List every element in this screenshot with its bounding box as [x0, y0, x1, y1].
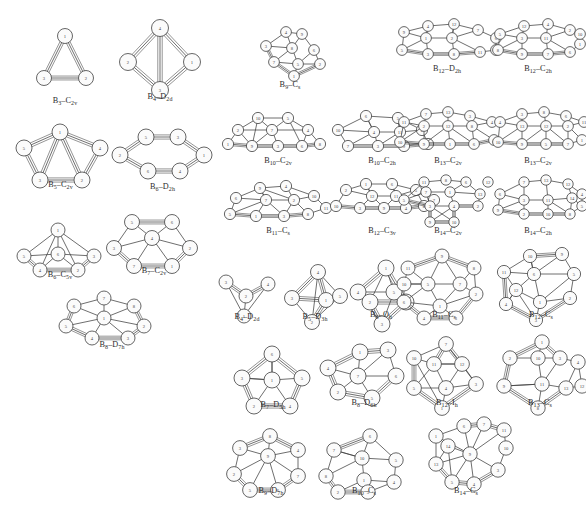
formula-subscript: 11	[272, 230, 278, 236]
atom-node	[517, 49, 528, 60]
atom-node	[457, 419, 471, 433]
cluster-b10-c2v: 10527419368B10–C2v	[222, 108, 334, 172]
point-group-subscript: 2v	[71, 100, 77, 106]
atom-node	[170, 129, 186, 145]
point-group-subscript: 6h	[370, 402, 376, 408]
atom-node	[112, 147, 128, 163]
atom-node	[563, 139, 574, 150]
formula-subscript: 4	[240, 316, 243, 322]
atom-node	[421, 33, 432, 44]
atom-node	[517, 109, 528, 120]
atom-node	[252, 112, 263, 123]
point-group-symbol: C	[540, 226, 546, 235]
atom-node	[92, 140, 108, 156]
atom-node	[388, 368, 404, 384]
cluster-label-b6-c5v: B6–C5v	[10, 270, 110, 279]
atom-group: 132	[37, 29, 94, 86]
cluster-label-b12-ih: B12–Ih	[404, 398, 490, 407]
cluster-label-b8-d7h: B8–D7h	[52, 340, 172, 349]
formula-element: B	[264, 156, 270, 165]
point-group-subscript: s	[551, 314, 553, 320]
atom-node	[517, 139, 528, 150]
cluster-b12-d2h: 412791265381110B12–D2h	[392, 18, 502, 80]
formula-element: B	[368, 226, 374, 235]
cluster-b12-c2h: 124253118976110B12–C2h	[490, 18, 586, 80]
atom-node	[227, 467, 242, 482]
atom-node	[495, 29, 506, 40]
cluster-label-b4-d2d-b: B4–D2d	[212, 312, 282, 321]
atom-node	[372, 140, 383, 151]
atom-node	[435, 249, 449, 263]
formula-subscript: 6	[376, 314, 379, 320]
formula-subscript: 5	[54, 184, 57, 190]
atom-node	[467, 121, 478, 132]
atom-node	[291, 469, 306, 484]
point-group-subscript: 2v	[456, 230, 462, 236]
atom-node	[439, 337, 454, 352]
atom-node	[469, 139, 480, 150]
formula-element: B	[524, 156, 530, 165]
atom-node	[425, 201, 435, 211]
cluster-label-b10-c2v: B10–C2v	[222, 156, 334, 165]
point-group-symbol: C	[545, 310, 551, 319]
formula-subscript: 12	[442, 402, 448, 408]
cluster-label-b5-d3h: B5–D3h	[282, 312, 348, 321]
atom-node	[340, 184, 351, 195]
atom-node	[342, 140, 353, 151]
point-group-symbol: C	[540, 156, 546, 165]
atom-node	[378, 260, 394, 276]
point-group-symbol: C	[540, 64, 546, 73]
atom-node	[563, 121, 574, 132]
cluster-diagram-b5-d3h: 43152	[282, 262, 348, 332]
point-group-symbol: C	[384, 226, 390, 235]
atom-node	[567, 267, 580, 280]
formula-subscript: 8	[357, 402, 360, 408]
cluster-label-b12-d2h: B12–D2h	[392, 64, 502, 73]
atom-node	[368, 126, 379, 137]
point-group-subscript: h	[455, 402, 458, 408]
atom-node	[423, 21, 434, 32]
atom-node	[196, 147, 212, 163]
atom-node	[261, 277, 275, 291]
atom-node	[397, 45, 408, 56]
cluster-b13-c2v-a: 71331121284109165B13–C2v	[392, 108, 504, 172]
cluster-label-b10-cs: B10–Cs	[318, 486, 410, 495]
formula-element: B	[432, 310, 438, 319]
atom-node	[533, 295, 546, 308]
cluster-diagram-b4-d2d-a: 4213	[110, 10, 210, 100]
cluster-b6-d2h: 532164B6–D2h	[110, 125, 215, 195]
atom-group: 76815243	[59, 291, 151, 345]
point-group-symbol: D	[449, 64, 455, 73]
point-group-symbol: C	[544, 398, 550, 407]
atom-node	[311, 265, 326, 280]
point-group-symbol: C	[384, 156, 390, 165]
atom-node	[219, 275, 233, 289]
atom-node	[443, 121, 454, 132]
point-group-symbol: C	[450, 226, 456, 235]
atom-node	[463, 447, 477, 461]
formula-subscript: 8	[105, 344, 108, 350]
atom-node	[527, 267, 540, 280]
atom-node	[421, 277, 435, 291]
formula-subscript: 12	[530, 68, 536, 74]
point-group-subscript: 2h	[546, 230, 552, 236]
atom-node	[469, 377, 484, 392]
atom-node	[491, 463, 505, 477]
atom-node	[467, 261, 481, 275]
atom-node	[519, 21, 530, 32]
cluster-b14-c2h: 713126311149210854B14–C2h	[490, 176, 586, 242]
formula-element: B	[266, 226, 272, 235]
atom-node	[567, 193, 577, 203]
atom-node	[282, 112, 293, 123]
cluster-label-b12-cs-3d: B12–Cs	[496, 310, 586, 319]
formula-subscript: 6	[156, 186, 159, 192]
formula-subscript: 14	[530, 230, 536, 236]
formula-subscript: 13	[530, 160, 536, 166]
atom-node	[575, 379, 586, 393]
point-group-subscript: s	[476, 490, 478, 496]
cluster-label-b12-c2h: B12–C2h	[490, 64, 586, 73]
atom-node	[234, 370, 250, 386]
atom-node	[407, 351, 422, 366]
atom-node	[475, 189, 485, 199]
atom-node	[443, 107, 454, 118]
